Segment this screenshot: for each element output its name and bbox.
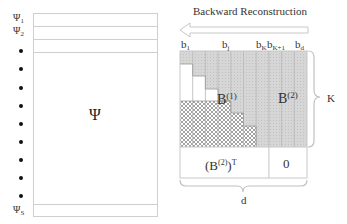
block-b2-label: B(2) bbox=[278, 90, 298, 104]
reconstruction-diagram bbox=[0, 0, 347, 224]
brace-k-label: K bbox=[327, 93, 335, 104]
col-label-bk1: bK+1 bbox=[267, 39, 285, 54]
backward-arrow-icon bbox=[180, 23, 308, 37]
brace-d-icon bbox=[180, 180, 307, 192]
brace-d-label: d bbox=[241, 195, 247, 206]
block-b1-label: B(1) bbox=[217, 91, 237, 105]
col-label-bd: bd bbox=[295, 39, 304, 54]
zero-block-label: 0 bbox=[283, 158, 290, 169]
brace-k-icon bbox=[308, 51, 320, 147]
col-label-b1: b1 bbox=[181, 39, 190, 54]
arrow-label: Backward Reconstruction bbox=[193, 6, 307, 17]
col-label-bj: bj bbox=[222, 39, 229, 54]
block-b2-transpose-label: (B(2))T bbox=[205, 157, 237, 171]
col-label-bk: bK bbox=[256, 39, 267, 54]
